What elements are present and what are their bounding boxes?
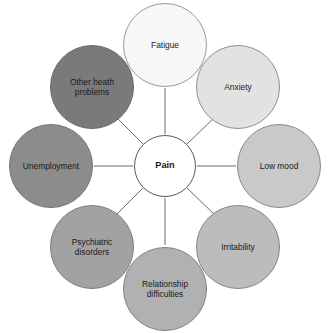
node-other-health-problems-label: Other heath problems	[65, 77, 119, 97]
node-low-mood-label: Low mood	[255, 161, 304, 171]
node-anxiety-label: Anxiety	[219, 82, 256, 92]
node-relationship-difficulties[interactable]: Relationship difficulties	[123, 247, 207, 331]
node-pain-center[interactable]: Pain	[134, 135, 196, 197]
node-fatigue-label: Fatigue	[146, 40, 184, 50]
node-relationship-difficulties-label: Relationship difficulties	[137, 279, 193, 299]
node-anxiety[interactable]: Anxiety	[196, 45, 280, 129]
node-psychiatric-disorders-label: Psychiatric disorders	[67, 237, 118, 257]
node-fatigue[interactable]: Fatigue	[123, 3, 207, 87]
node-pain-center-label: Pain	[150, 160, 179, 171]
node-irritability-label: Irritability	[216, 242, 260, 252]
spoke-line-top-left	[115, 116, 143, 144]
node-irritability[interactable]: Irritability	[196, 205, 280, 289]
pain-consequences-diagram: Fatigue Anxiety Low mood Irritability Re…	[0, 0, 331, 333]
node-unemployment-label: Unemployment	[18, 161, 84, 171]
node-unemployment[interactable]: Unemployment	[9, 124, 93, 208]
node-other-health-problems[interactable]: Other heath problems	[50, 45, 134, 129]
spoke-line-bottom-right	[187, 188, 216, 216]
node-low-mood[interactable]: Low mood	[237, 124, 321, 208]
spoke-line-bottom-left	[115, 188, 143, 216]
node-psychiatric-disorders[interactable]: Psychiatric disorders	[50, 205, 134, 289]
